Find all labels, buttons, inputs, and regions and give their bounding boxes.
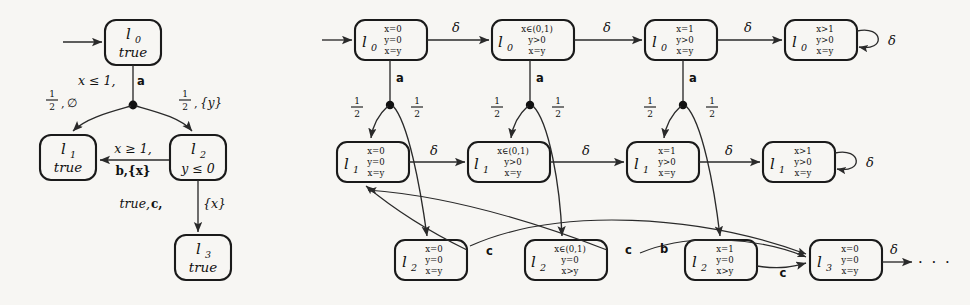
region-node-l0-2-sub: 0 [661, 42, 667, 53]
region-node-l1-2-c1: x=1 [658, 146, 676, 156]
region-node-l1-0[interactable]: l 1 x=0 y=0 x=y [337, 142, 409, 182]
action-c: c, [151, 197, 162, 211]
selfloop-l0-3 [857, 30, 878, 47]
region-node-l2-2-c2: y=0 [715, 255, 734, 265]
region-node-l2-1-c3: x>y [562, 266, 579, 276]
edge-branch1-to-l1-0 [371, 106, 388, 138]
fan3-right-den: 2 [709, 109, 715, 119]
region-node-l3-c3: x=y [842, 266, 859, 276]
region-node-l1-0-c2: y=0 [366, 157, 385, 167]
fan1-left-den: 2 [354, 109, 360, 119]
region-node-l0-0-c2: y=0 [383, 35, 402, 45]
action-b-l2-1: b [660, 242, 668, 256]
region-node-l1-3[interactable]: l 1 x>1 y>0 x=y [763, 142, 835, 182]
fan2-right-den: 2 [555, 109, 561, 119]
delta-label-l0-2: δ [744, 20, 752, 35]
region-node-l2-0[interactable]: l 2 x=0 y=0 x=y [395, 240, 467, 280]
region-node-l0-0-sub: 0 [371, 42, 377, 53]
action-c-l2-1: c [625, 243, 632, 257]
region-node-l1-2[interactable]: l 1 x=1 y>0 x=y [627, 142, 699, 182]
region-node-l1-3-loc: l [770, 155, 775, 173]
region-node-l2-2[interactable]: l 2 x=1 y=0 x>y [685, 240, 757, 280]
prob-left-den: 2 [49, 102, 55, 112]
region-node-l2-0-c2: y=0 [424, 255, 443, 265]
edge-branch2-to-l1-1 [511, 106, 528, 138]
delta-label-l1-0: δ [430, 143, 438, 158]
action-c-l2-0: c [486, 244, 493, 258]
fan3-left-num: 1 [647, 96, 653, 106]
left-guard-l0: x ≤ 1, [78, 73, 115, 88]
fan1-left-num: 1 [354, 96, 360, 106]
guard-l2-l1: x ≥ 1, [114, 141, 151, 156]
action-a-1: a [396, 71, 404, 85]
region-node-l0-2[interactable]: l 0 x=1 y>0 x=y [645, 20, 717, 60]
region-node-l0-1-c2: y>0 [527, 35, 546, 45]
fan3-right-num: 1 [709, 96, 715, 106]
delta-label-l1-1: δ [582, 143, 590, 158]
region-node-l1-2-c2: y>0 [657, 157, 676, 167]
node-l2-label: l [191, 140, 196, 158]
prob-left-num: 1 [49, 89, 55, 99]
region-node-l2-1-c1: x∈(0,1) [554, 244, 586, 254]
node-l2-invariant: y ≤ 0 [180, 161, 214, 176]
right-diagram: l 0 x=0 y=0 x=y l 0 x∈(0,1) y>0 x=y l 0 … [322, 20, 952, 280]
region-node-l1-1-c2: y>0 [503, 157, 522, 167]
reset-y: {y} [200, 96, 222, 110]
region-node-l1-1-sub: 1 [483, 164, 489, 175]
region-node-l0-1[interactable]: l 0 x∈(0,1) y>0 x=y [492, 20, 574, 60]
region-node-l0-2-loc: l [652, 33, 657, 51]
region-node-l1-3-sub: 1 [779, 164, 785, 175]
node-l3[interactable]: l 3 true [175, 235, 231, 280]
action-b-reset-x: b,{x} [115, 164, 150, 178]
region-node-l0-0[interactable]: l 0 x=0 y=0 x=y [355, 20, 427, 60]
branch-point-2 [526, 101, 534, 109]
branch-point-1 [386, 101, 394, 109]
left-diagram: l 0 true x ≤ 1, a 1 2 , ∅ 1 2 , {y} [40, 20, 231, 280]
action-a-3: a [689, 71, 697, 85]
prob-fan3-right: 1 2 [706, 96, 718, 119]
fan2-right-num: 1 [555, 96, 561, 106]
region-node-l1-3-c1: x>1 [794, 146, 812, 156]
node-l3-label: l [196, 240, 201, 258]
region-node-l2-1-c2: y=0 [560, 255, 579, 265]
node-l1-label: l [61, 140, 66, 158]
prob-label-right: 1 2 , {y} [179, 89, 222, 112]
region-node-l3-sub: 3 [826, 262, 832, 273]
region-node-l0-3-loc: l [792, 33, 797, 51]
edge-branch3-to-l1-2 [664, 106, 681, 138]
region-node-l3[interactable]: l 3 x=0 y=0 x=y [810, 240, 882, 280]
prob-fan2-left: 1 2 [491, 96, 503, 119]
region-node-l1-1[interactable]: l 1 x∈(0,1) y>0 x=y [468, 142, 550, 182]
region-node-l1-3-c2: y>0 [793, 157, 812, 167]
fan2-left-num: 1 [494, 96, 500, 106]
region-node-l1-0-c3: x=y [368, 168, 385, 178]
region-row-l0: l 0 x=0 y=0 x=y l 0 x∈(0,1) y>0 x=y l 0 … [355, 20, 896, 60]
region-node-l0-3-sub: 0 [801, 42, 807, 53]
region-node-l0-2-c1: x=1 [676, 24, 694, 34]
region-node-l1-0-c1: x=0 [367, 146, 385, 156]
reset-x-l2-l3: {x} [203, 196, 226, 211]
region-node-l2-1[interactable]: l 2 x∈(0,1) y=0 x>y [525, 240, 607, 280]
node-l1[interactable]: l 1 true [40, 135, 96, 180]
region-row-l2: l 2 x=0 y=0 x=y l 2 x∈(0,1) y=0 x>y l 2 … [395, 240, 952, 280]
region-node-l0-3-c1: x>1 [816, 24, 834, 34]
region-node-l2-0-c3: x=y [426, 266, 443, 276]
region-node-l2-0-c1: x=0 [425, 244, 443, 254]
region-node-l0-0-c1: x=0 [384, 24, 402, 34]
node-l0[interactable]: l 0 true [105, 20, 161, 65]
region-node-l0-1-sub: 0 [507, 42, 513, 53]
selfloop-delta-l1: δ [866, 155, 874, 170]
region-node-l2-0-loc: l [402, 253, 407, 271]
fan1-right-den: 2 [414, 109, 420, 119]
region-node-l1-2-sub: 1 [643, 164, 649, 175]
prob-fan1-left: 1 2 [351, 96, 363, 119]
region-node-l3-loc: l [817, 253, 822, 271]
branch-point-3 [679, 101, 687, 109]
region-node-l0-3[interactable]: l 0 x>1 y>0 x=y [785, 20, 857, 60]
node-l2[interactable]: l 2 y ≤ 0 [170, 135, 226, 180]
delta-label-l0-0: δ [452, 20, 460, 35]
region-node-l3-c2: y=0 [840, 255, 859, 265]
region-node-l2-2-loc: l [692, 253, 697, 271]
region-node-l0-0-loc: l [362, 33, 367, 51]
region-node-l0-3-c3: x=y [817, 46, 834, 56]
